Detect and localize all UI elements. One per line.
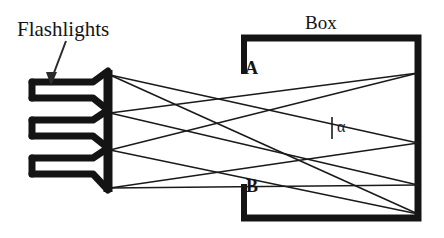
angle-alpha-label: α	[337, 119, 345, 135]
diagram-canvas: Flashlights Box A B α	[0, 0, 444, 238]
ray	[110, 73, 418, 113]
ray-b-label: B	[246, 177, 258, 195]
light-rays	[110, 73, 418, 214]
ray-a-label: A	[245, 59, 258, 77]
ray	[110, 185, 418, 188]
flashlight-assembly	[32, 70, 108, 192]
flashlight-body	[32, 71, 108, 110]
flashlight-body	[32, 110, 108, 148]
flashlight-body	[32, 148, 108, 190]
box-label: Box	[305, 13, 337, 32]
ray	[110, 75, 418, 214]
flashlights-label: Flashlights	[17, 19, 109, 40]
box-outline	[241, 38, 418, 218]
